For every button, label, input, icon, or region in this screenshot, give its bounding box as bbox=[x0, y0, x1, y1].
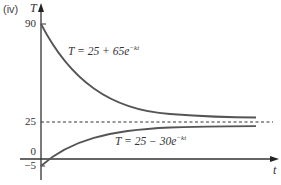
tick-label-m5: −5 bbox=[12, 159, 36, 171]
equation-upper: T = 25 + 65e−kt bbox=[68, 44, 139, 57]
equation-upper-text: T = 25 + 65e bbox=[68, 45, 129, 57]
tick-label-0: 0 bbox=[12, 145, 36, 157]
tick-label-90: 90 bbox=[12, 17, 36, 29]
chart-canvas bbox=[0, 0, 281, 185]
equation-lower-text: T = 25 − 30e bbox=[115, 135, 176, 147]
x-axis-label: t bbox=[273, 163, 276, 178]
curve-upper bbox=[41, 24, 256, 118]
tick-label-25: 25 bbox=[12, 115, 36, 127]
x-axis-arrow-icon bbox=[270, 156, 279, 162]
equation-upper-exponent: −kt bbox=[129, 44, 139, 52]
equation-lower-exponent: −kt bbox=[176, 134, 186, 142]
y-axis-label: T bbox=[30, 1, 37, 16]
y-axis-arrow-icon bbox=[38, 3, 44, 12]
equation-lower: T = 25 − 30e−kt bbox=[115, 134, 186, 147]
